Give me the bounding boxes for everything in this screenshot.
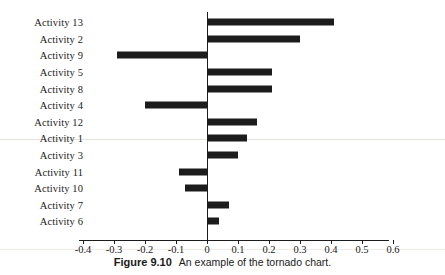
category-label: Activity 12 (34, 116, 83, 127)
bar-row: Activity 11 (0, 163, 445, 180)
scan-artifact-line-lower (0, 249, 445, 250)
x-tick-label: -0.1 (168, 244, 185, 255)
x-tick-label: -0.3 (106, 244, 123, 255)
category-label: Activity 9 (40, 50, 83, 61)
category-label: Activity 11 (35, 166, 83, 177)
category-label: Activity 10 (34, 183, 83, 194)
figure-caption: Figure 9.10An example of the tornado cha… (0, 256, 445, 268)
x-tick-label: 0.3 (293, 244, 306, 255)
x-tick-label: 0.1 (231, 244, 244, 255)
bar (145, 102, 207, 109)
bar-row: Activity 10 (0, 180, 445, 197)
bar-row: Activity 3 (0, 147, 445, 164)
category-label: Activity 5 (40, 67, 83, 78)
x-tick-label: -0.2 (137, 244, 154, 255)
bar (207, 85, 272, 92)
bar-row: Activity 12 (0, 114, 445, 131)
bar (207, 218, 219, 225)
tornado-chart-figure: Activity 13Activity 2Activity 9Activity … (0, 0, 445, 275)
category-label: Activity 2 (40, 33, 83, 44)
bar (207, 152, 238, 159)
bar (117, 52, 207, 59)
category-label: Activity 6 (40, 216, 83, 227)
category-label: Activity 1 (40, 133, 83, 144)
bar (207, 135, 247, 142)
zero-axis-line (207, 12, 208, 240)
bar (207, 201, 229, 208)
category-label: Activity 4 (40, 100, 83, 111)
bar-rows: Activity 13Activity 2Activity 9Activity … (0, 14, 445, 230)
bar (207, 69, 272, 76)
category-label: Activity 13 (34, 17, 83, 28)
bar (207, 118, 257, 125)
x-axis-line (79, 240, 389, 241)
bar-row: Activity 4 (0, 97, 445, 114)
bar (207, 19, 334, 26)
x-tick-label: -0.4 (75, 244, 92, 255)
plot-area: Activity 13Activity 2Activity 9Activity … (0, 0, 445, 245)
x-tick-label: 0.6 (386, 244, 399, 255)
category-label: Activity 7 (40, 199, 83, 210)
bar-row: Activity 2 (0, 31, 445, 48)
figure-caption-text: An example of the tornado chart. (179, 256, 331, 268)
bar (207, 35, 300, 42)
figure-caption-label: Figure 9.10 (114, 256, 172, 268)
bar-row: Activity 6 (0, 213, 445, 230)
bar-row: Activity 8 (0, 80, 445, 97)
bar-row: Activity 9 (0, 47, 445, 64)
x-tick-label: 0 (204, 244, 209, 255)
bar-row: Activity 13 (0, 14, 445, 31)
bar (185, 185, 207, 192)
bar-row: Activity 1 (0, 130, 445, 147)
category-label: Activity 3 (40, 150, 83, 161)
x-tick-label: 0.4 (324, 244, 337, 255)
bar (179, 168, 207, 175)
bar-row: Activity 7 (0, 197, 445, 214)
x-tick-label: 0.5 (355, 244, 368, 255)
bar-row: Activity 5 (0, 64, 445, 81)
x-tick-label: 0.2 (262, 244, 275, 255)
category-label: Activity 8 (40, 83, 83, 94)
